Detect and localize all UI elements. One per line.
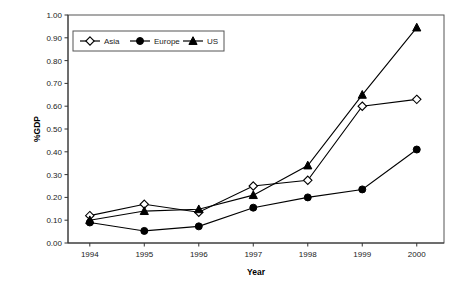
y-tick-label: 0.90 — [46, 34, 62, 43]
y-tick-label: 0.40 — [46, 148, 62, 157]
data-point-marker-filled-circle — [141, 227, 148, 234]
legend-label: Europe — [154, 37, 180, 46]
legend-label: US — [207, 37, 218, 46]
y-axis-title: %GDP — [32, 116, 42, 142]
line-chart: 0.000.100.200.300.400.500.600.700.800.90… — [0, 0, 466, 291]
data-point-marker-filled-circle — [359, 186, 366, 193]
data-point-marker-filled-triangle — [249, 191, 257, 199]
y-tick-label: 0.70 — [46, 79, 62, 88]
data-point-marker-open-diamond — [413, 95, 421, 103]
y-tick-label: 0.80 — [46, 57, 62, 66]
data-point-marker-open-diamond — [304, 176, 312, 184]
y-tick-label: 0.60 — [46, 102, 62, 111]
data-point-marker-filled-triangle — [413, 23, 421, 31]
chart-container: 0.000.100.200.300.400.500.600.700.800.90… — [0, 0, 466, 291]
y-axis-ticks: 0.000.100.200.300.400.500.600.700.800.90… — [46, 11, 68, 248]
x-tick-label: 1996 — [190, 250, 208, 259]
series-us — [86, 23, 421, 223]
x-tick-label: 1995 — [135, 250, 153, 259]
x-tick-label: 2000 — [408, 250, 426, 259]
y-tick-label: 0.00 — [46, 239, 62, 248]
data-point-marker-filled-circle — [304, 194, 311, 201]
data-point-marker-open-diamond — [358, 102, 366, 110]
y-tick-label: 0.10 — [46, 216, 62, 225]
data-point-marker-filled-circle — [137, 38, 144, 45]
y-tick-label: 0.50 — [46, 125, 62, 134]
series-asia — [86, 95, 421, 220]
x-tick-label: 1997 — [244, 250, 262, 259]
data-point-marker-filled-circle — [413, 146, 420, 153]
x-tick-label: 1999 — [353, 250, 371, 259]
data-point-marker-filled-circle — [195, 223, 202, 230]
data-point-marker-open-diamond — [249, 182, 257, 190]
x-tick-label: 1994 — [81, 250, 99, 259]
x-tick-label: 1998 — [299, 250, 317, 259]
y-tick-label: 0.30 — [46, 171, 62, 180]
x-axis-title: Year — [247, 267, 266, 277]
data-point-marker-filled-circle — [250, 204, 257, 211]
y-tick-label: 0.20 — [46, 193, 62, 202]
legend-label: Asia — [104, 37, 120, 46]
chart-legend: AsiaEuropeUS — [73, 31, 224, 51]
x-axis-ticks: 1994199519961997199819992000 — [81, 243, 426, 259]
y-tick-label: 1.00 — [46, 11, 62, 20]
